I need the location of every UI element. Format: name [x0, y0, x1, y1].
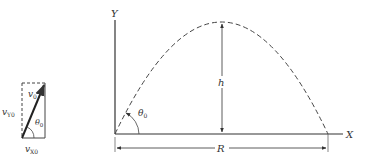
x-axis-label: X [345, 129, 354, 140]
v0-label: v0 [28, 89, 37, 100]
theta0-arc-small [27, 127, 34, 138]
theta0-label-small: θ0 [35, 118, 44, 128]
range-label: R [216, 143, 225, 154]
projectile-motion-figure: v0 vY0 θ0 vX0 Y X h R θ0 [0, 0, 368, 161]
height-label: h [218, 77, 224, 88]
vy0-label: vY0 [2, 107, 15, 118]
velocity-component-diagram: v0 vY0 θ0 vX0 [2, 83, 45, 155]
y-axis-label: Y [111, 8, 119, 19]
theta0-label: θ0 [138, 108, 147, 119]
trajectory-diagram: Y X h R θ0 [111, 8, 354, 154]
vx0-label: vX0 [25, 144, 38, 155]
